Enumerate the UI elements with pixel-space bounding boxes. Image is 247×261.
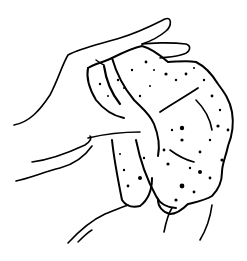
upper-hand — [14, 18, 190, 138]
lower-hand — [68, 205, 212, 243]
lower-thumb — [16, 136, 92, 181]
hand-sponge-drawing — [0, 0, 247, 261]
textured-object — [87, 46, 232, 214]
illustration — [0, 0, 247, 261]
